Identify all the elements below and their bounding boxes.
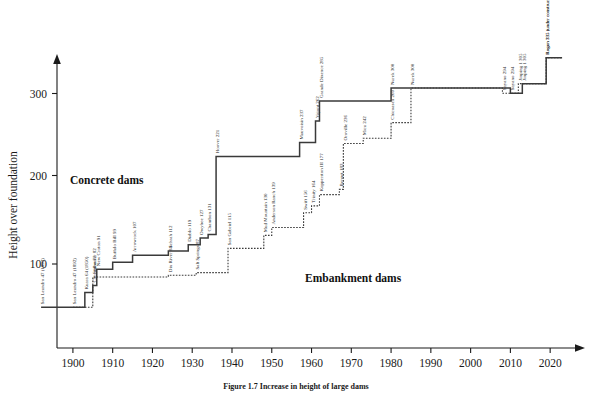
embankment-point-label-10: Bennet 183 — [339, 163, 344, 186]
x-tick-label-1970: 1970 — [340, 357, 363, 369]
annotation-concrete-dams: Concrete dams — [70, 174, 144, 186]
concrete-point-label-17: Rogun 335 (under construction) — [545, 0, 550, 55]
concrete-point-label-5: Arrowrock 107 — [132, 221, 137, 252]
annotation-embankment-dams: Embankment dams — [305, 272, 402, 284]
y-axis: 300 200 100 Height over foundation — [7, 54, 61, 348]
embankment-point-label-5: Mud Mountain 130 — [263, 193, 268, 232]
concrete-point-label-8: Owyhee 127 — [199, 209, 204, 235]
concrete-point-label-15: Sayano 294 — [510, 66, 515, 90]
x-tick-label-1900: 1900 — [61, 357, 84, 369]
embankment-point-label-4: San Gabriel 115 — [227, 213, 232, 246]
embankment-point-label-0: San Leandro 47 (1892) — [72, 258, 77, 305]
embankment-step-line — [73, 58, 562, 308]
x-tick-label-1950: 1950 — [260, 357, 283, 369]
y-tick-label-300: 300 — [30, 88, 48, 100]
embankment-point-label-2: Dix River 84 — [168, 246, 173, 273]
embankment-point-labels: San Leandro 47 (1892)Stillwater 82Dix Ri… — [72, 0, 550, 304]
y-tick-label-200: 200 — [30, 170, 48, 182]
x-tick-label-1930: 1930 — [181, 357, 204, 369]
x-tick-label-1910: 1910 — [101, 357, 124, 369]
group-annotations: Concrete dams Embankment dams — [70, 174, 402, 284]
concrete-point-label-3: New Croton 91 — [96, 235, 101, 266]
embankment-point-label-8: Trinity 164 — [311, 180, 316, 203]
concrete-point-labels: San Leandro 47 (1892)Kuara 64 (1850)Chee… — [40, 0, 550, 304]
x-tick-label-2020: 2020 — [539, 357, 562, 369]
figure-caption: Figure 1.7 Increase in height of large d… — [223, 382, 368, 391]
concrete-point-label-10: Hoover 221 — [215, 129, 220, 153]
x-tick-label-2010: 2010 — [499, 357, 522, 369]
x-tick-labels: 1900191019201930194019501960197019801990… — [61, 357, 562, 369]
figure-container: 300 200 100 Height over foundation 19001… — [0, 0, 593, 393]
concrete-point-label-11: Mauvoisin 237 — [299, 109, 304, 140]
concrete-point-label-7: Diablo 119 — [187, 219, 192, 242]
embankment-point-label-14: Nurek 300 — [410, 63, 415, 85]
y-axis-title: Height over foundation — [7, 151, 20, 259]
x-tick-label-1940: 1940 — [220, 357, 243, 369]
series-embankment: San Leandro 47 (1892)Stillwater 82Dix Ri… — [72, 0, 562, 307]
concrete-point-label-1: Kuara 64 (1850) — [84, 256, 89, 289]
concrete-point-label-6: Schrah 112 — [168, 225, 173, 248]
x-tick-label-1990: 1990 — [419, 357, 442, 369]
concrete-point-label-13: Grande Dixence 285 — [319, 56, 324, 98]
x-tick-label-1960: 1960 — [300, 357, 323, 369]
x-tick-label-1920: 1920 — [141, 357, 164, 369]
concrete-point-label-9: Chambon 131 — [207, 203, 212, 232]
concrete-point-label-4: Buffalo Bill 99 — [112, 229, 117, 260]
embankment-point-label-11: Oroville 236 — [343, 115, 348, 141]
x-tick-label-2000: 2000 — [459, 357, 482, 369]
embankment-point-label-6: Anderson Ranch 139 — [271, 182, 276, 225]
dam-height-chart: 300 200 100 Height over foundation 19001… — [0, 0, 593, 393]
x-ticks — [73, 348, 550, 353]
embankment-point-label-7: Swift 156 — [303, 190, 308, 210]
concrete-point-label-14: Nurek 300 — [390, 63, 395, 85]
concrete-point-label-16: Jinping 1 305 — [522, 53, 527, 81]
x-tick-label-1980: 1980 — [380, 357, 403, 369]
concrete-point-label-0: San Leandro 47 (1892) — [40, 258, 45, 305]
series-concrete: San Leandro 47 (1892)Kuara 64 (1850)Chee… — [40, 0, 562, 307]
embankment-point-label-15: Sayano 294 — [502, 66, 507, 90]
x-axis: 1900191019201930194019501960197019801990… — [57, 344, 585, 369]
embankment-point-label-9: Kopperston III 177 — [319, 153, 324, 192]
y-axis-arrow — [53, 54, 61, 64]
embankment-point-label-12: Mica 242 — [362, 116, 367, 136]
x-axis-arrow — [575, 344, 585, 352]
